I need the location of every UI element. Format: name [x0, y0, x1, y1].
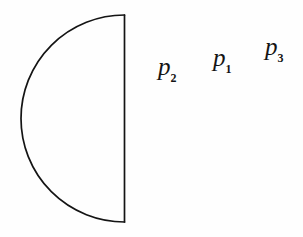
point-label-p1: p1 — [213, 45, 232, 72]
point-label-p3: p3 — [265, 34, 284, 61]
point-label-p2-symbol: p — [158, 53, 171, 80]
point-label-p3-symbol: p — [265, 33, 278, 60]
figure-container: p2 p1 p3 — [0, 0, 303, 237]
point-label-p2: p2 — [158, 54, 177, 81]
semicircle-arc-path — [21, 15, 125, 222]
point-label-p1-subscript: 1 — [226, 62, 232, 76]
point-label-p1-symbol: p — [213, 44, 226, 71]
point-label-p3-subscript: 3 — [278, 51, 284, 65]
semicircle-drawing — [0, 0, 303, 237]
point-label-p2-subscript: 2 — [171, 71, 177, 85]
